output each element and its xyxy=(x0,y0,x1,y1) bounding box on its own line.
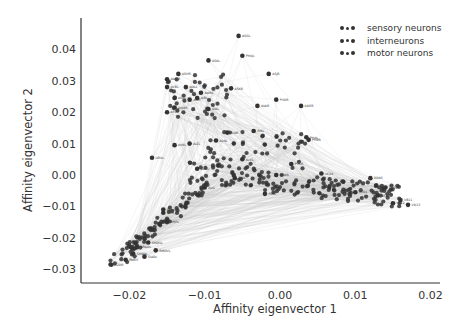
neuron-node: AIAL xyxy=(206,107,219,112)
y-axis-label: Affinity eigenvector 2 xyxy=(21,88,35,212)
neuron-point xyxy=(320,196,324,200)
neuron-point xyxy=(188,178,192,182)
neuron-point xyxy=(347,192,351,196)
svg-text:ADLL: ADLL xyxy=(189,85,197,89)
neuron-point xyxy=(295,191,299,195)
svg-text:URADL: URADL xyxy=(140,245,151,249)
neuron-point xyxy=(358,180,362,184)
neuron-node: VA12 xyxy=(391,201,405,206)
neuron-node: AVBL xyxy=(165,85,179,90)
svg-text:DA09: DA09 xyxy=(389,186,398,190)
neuron-point xyxy=(119,257,123,261)
neuron-point xyxy=(147,227,151,231)
neuron-point xyxy=(187,196,191,200)
neuron-point xyxy=(153,225,157,229)
neuron-point xyxy=(328,184,332,188)
neuron-point xyxy=(158,222,162,226)
neuron-point xyxy=(372,197,376,201)
svg-text:AWBL: AWBL xyxy=(204,91,213,95)
neuron-point xyxy=(276,144,280,148)
neuron-node: PVDR xyxy=(274,97,289,102)
neuron-point xyxy=(187,192,191,196)
neuron-point xyxy=(154,221,158,225)
neuron-point xyxy=(120,251,124,255)
neuron-point xyxy=(260,134,264,138)
neuron-point xyxy=(301,185,305,189)
neuron-point xyxy=(348,187,352,191)
neuron-point xyxy=(213,173,217,177)
neuron-point xyxy=(128,240,132,244)
neuron-point xyxy=(307,179,311,183)
neuron-node: ASGL xyxy=(236,34,250,39)
neuron-node: AVEL xyxy=(240,157,254,162)
neuron-point xyxy=(346,197,350,201)
svg-text:PVCR: PVCR xyxy=(295,162,304,166)
neuron-point xyxy=(222,113,226,117)
neuron-point xyxy=(341,180,345,184)
neuron-point xyxy=(337,193,341,197)
neuron-point xyxy=(142,240,146,244)
neuron-point xyxy=(195,179,199,183)
neuron-node: AVG xyxy=(202,185,215,190)
neuron-point xyxy=(225,93,229,97)
svg-text:AVKL: AVKL xyxy=(178,143,186,147)
neuron-point xyxy=(155,216,159,220)
y-tick-label: 0.02 xyxy=(52,106,77,119)
neuron-point xyxy=(292,182,296,186)
svg-text:SIADL: SIADL xyxy=(148,255,158,259)
x-tick-labels: −0.02−0.010.000.010.02 xyxy=(113,289,443,302)
neuron-point xyxy=(321,185,325,189)
svg-text:ASJR: ASJR xyxy=(272,72,280,76)
neuron-point xyxy=(249,162,253,166)
neuron-point xyxy=(153,232,157,236)
neuron-point xyxy=(208,150,212,154)
neuron-point xyxy=(213,116,217,120)
neuron-point xyxy=(215,169,219,173)
legend-item-motor: motor neurons xyxy=(340,47,441,60)
neuron-node: RIGL xyxy=(233,176,246,181)
neuron-point xyxy=(220,83,224,87)
svg-text:RIGL: RIGL xyxy=(238,176,246,180)
neuron-point xyxy=(127,245,131,249)
svg-text:VD13: VD13 xyxy=(412,203,421,207)
neuron-point xyxy=(179,214,183,218)
neuron-point xyxy=(296,146,300,150)
neuron-point xyxy=(220,178,224,182)
interneuron-marker-icon xyxy=(340,39,362,43)
svg-text:ASEL: ASEL xyxy=(178,96,186,100)
neuron-node: ASJR xyxy=(266,72,280,77)
neuron-point xyxy=(290,166,294,170)
svg-text:ALNL: ALNL xyxy=(219,139,227,143)
legend: sensory neurons interneurons motor neuro… xyxy=(340,22,441,60)
neuron-node: ASHR xyxy=(176,72,191,77)
neuron-point xyxy=(189,89,193,93)
neuron-node: PVCR xyxy=(289,162,304,167)
svg-text:IL2DR: IL2DR xyxy=(114,263,124,267)
neuron-node: ASEL xyxy=(172,96,186,101)
neuron-point xyxy=(237,166,241,170)
neuron-point xyxy=(193,73,197,77)
neuron-point xyxy=(193,191,197,195)
neuron-point xyxy=(312,178,316,182)
neuron-point xyxy=(211,155,215,159)
neuron-node: RMEV xyxy=(123,257,139,262)
neuron-point xyxy=(176,115,180,119)
svg-text:SMDVL: SMDVL xyxy=(152,241,163,245)
neuron-point xyxy=(204,174,208,178)
neuron-point xyxy=(261,181,265,185)
neuron-node: SIADL xyxy=(142,254,157,259)
neuron-point xyxy=(183,192,187,196)
neuron-point xyxy=(305,184,309,188)
y-tick-label: −0.01 xyxy=(42,200,76,213)
neuron-point xyxy=(260,170,264,174)
motor-marker-icon xyxy=(340,51,362,55)
neuron-point xyxy=(278,138,282,142)
neuron-point xyxy=(231,181,235,185)
neuron-point xyxy=(202,85,206,89)
svg-text:ADER: ADER xyxy=(305,104,315,108)
svg-text:RIBL: RIBL xyxy=(257,129,264,133)
svg-text:VC01: VC01 xyxy=(359,190,367,194)
svg-text:AVG: AVG xyxy=(208,186,215,190)
neuron-point xyxy=(240,171,244,175)
neuron-node: ADER xyxy=(299,104,314,109)
